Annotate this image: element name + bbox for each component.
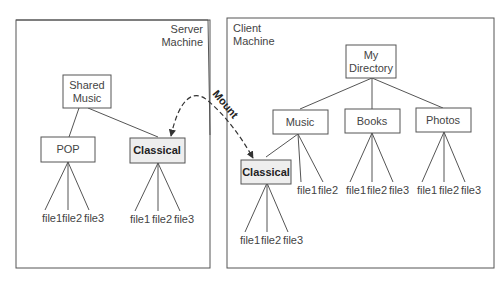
server-pop-files: file1 file2 file3	[42, 212, 104, 224]
server-root-node[interactable]: Shared Music	[63, 75, 111, 108]
client-music-node[interactable]: Music	[273, 110, 328, 134]
svg-text:Music: Music	[73, 92, 102, 104]
client-books-node[interactable]: Books	[345, 109, 400, 133]
svg-text:POP: POP	[56, 143, 79, 155]
server-title-line2: Machine	[161, 36, 203, 48]
svg-text:file1: file1	[130, 213, 150, 225]
svg-text:file2: file2	[439, 184, 459, 196]
svg-text:Music: Music	[286, 116, 315, 128]
svg-text:file2: file2	[62, 212, 82, 224]
client-title-line1: Client	[233, 22, 261, 34]
client-title-line2: Machine	[233, 35, 275, 47]
svg-text:Books: Books	[357, 115, 388, 127]
svg-text:file3: file3	[283, 234, 303, 246]
mount-label: Mount	[210, 88, 241, 121]
svg-text:file2: file2	[152, 213, 172, 225]
svg-text:Classical: Classical	[133, 144, 181, 156]
server-pop-node[interactable]: POP	[41, 137, 95, 162]
svg-text:file1: file1	[346, 184, 366, 196]
svg-text:file1: file1	[42, 212, 62, 224]
svg-text:file2: file2	[318, 184, 338, 196]
svg-text:Classical: Classical	[242, 166, 290, 178]
client-root-node[interactable]: My Directory	[346, 45, 396, 78]
client-tree	[245, 78, 465, 232]
svg-text:file3: file3	[174, 213, 194, 225]
svg-text:file2: file2	[261, 234, 281, 246]
server-classical-node[interactable]: Classical	[130, 138, 185, 163]
svg-text:file1: file1	[417, 184, 437, 196]
svg-text:Photos: Photos	[426, 114, 461, 126]
client-classical-node[interactable]: Classical	[241, 160, 291, 184]
client-classical-files: file1 file2 file3	[240, 234, 303, 246]
client-photos-files: file1 file2 file3	[417, 184, 481, 196]
svg-text:file3: file3	[389, 184, 409, 196]
client-photos-node[interactable]: Photos	[416, 108, 471, 132]
client-music-files: file1 file2	[297, 184, 338, 196]
svg-text:file3: file3	[84, 212, 104, 224]
svg-text:file1: file1	[240, 234, 260, 246]
svg-text:file2: file2	[367, 184, 387, 196]
svg-text:Directory: Directory	[349, 62, 394, 74]
client-books-files: file1 file2 file3	[346, 184, 409, 196]
svg-text:file1: file1	[297, 184, 317, 196]
server-title-line1: Server	[171, 23, 204, 35]
svg-text:file3: file3	[461, 184, 481, 196]
svg-text:Shared: Shared	[69, 79, 104, 91]
svg-text:My: My	[364, 49, 379, 61]
server-classical-files: file1 file2 file3	[130, 213, 194, 225]
